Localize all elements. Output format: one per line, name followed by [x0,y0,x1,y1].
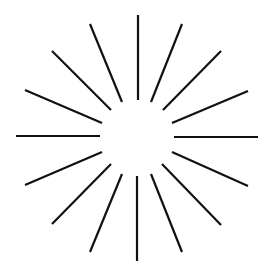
background [0,0,270,279]
radial-burst-diagram [0,0,270,279]
